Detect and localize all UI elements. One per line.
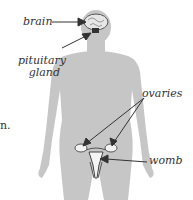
label-ovaries: ovaries (142, 88, 182, 100)
label-womb: womb (149, 155, 183, 167)
body-diagram (0, 0, 193, 200)
label-pituitary-line2: gland (18, 67, 60, 79)
right-ovary-icon (105, 144, 117, 152)
label-brain: brain (23, 16, 52, 28)
pituitary-icon (92, 28, 99, 33)
cutoff-text: n. (0, 120, 11, 132)
label-pituitary: pituitary gland (18, 55, 60, 79)
brain-icon (84, 14, 108, 30)
